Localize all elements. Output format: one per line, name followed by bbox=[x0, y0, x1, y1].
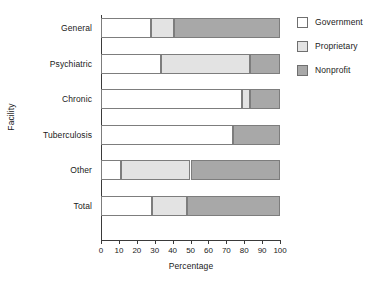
x-tick bbox=[262, 240, 263, 244]
stacked-bar bbox=[101, 196, 280, 216]
category-label-chronic: Chronic bbox=[6, 89, 92, 109]
legend-item-nonprofit: Nonprofit bbox=[297, 62, 373, 86]
bar-segment-government bbox=[101, 18, 151, 38]
bar-segment-government bbox=[101, 196, 152, 216]
legend-label: Nonprofit bbox=[315, 62, 350, 78]
x-tick bbox=[101, 240, 102, 244]
legend-label: Government bbox=[315, 14, 363, 30]
x-tick bbox=[119, 240, 120, 244]
stacked-bar-chart: Facility GeneralPsychiatricChronicTuberc… bbox=[0, 0, 374, 288]
legend-item-proprietary: Proprietary bbox=[297, 38, 373, 62]
chart-legend: GovernmentProprietaryNonprofit bbox=[297, 14, 373, 86]
stacked-bar bbox=[101, 18, 280, 38]
bar-segment-government bbox=[101, 54, 161, 74]
bar-segment-proprietary bbox=[121, 160, 191, 180]
bar-row: Chronic bbox=[0, 89, 374, 109]
category-label-other: Other bbox=[6, 160, 92, 180]
category-label-tuberculosis: Tuberculosis bbox=[6, 125, 92, 145]
x-tick bbox=[226, 240, 227, 244]
bar-segment-government bbox=[101, 160, 121, 180]
stacked-bar bbox=[101, 54, 280, 74]
legend-swatch-nonprofit bbox=[297, 65, 308, 76]
legend-swatch-proprietary bbox=[297, 41, 308, 52]
x-tick bbox=[155, 240, 156, 244]
bar-row: Tuberculosis bbox=[0, 125, 374, 145]
bar-row: Total bbox=[0, 196, 374, 216]
category-label-general: General bbox=[6, 18, 92, 38]
bar-segment-proprietary bbox=[161, 54, 250, 74]
x-tick bbox=[244, 240, 245, 244]
category-label-total: Total bbox=[6, 196, 92, 216]
bar-segment-proprietary bbox=[151, 18, 174, 38]
legend-label: Proprietary bbox=[315, 38, 358, 54]
category-label-psychiatric: Psychiatric bbox=[6, 54, 92, 74]
stacked-bar bbox=[101, 160, 280, 180]
stacked-bar bbox=[101, 89, 280, 109]
stacked-bar bbox=[101, 125, 280, 145]
bar-row: Other bbox=[0, 160, 374, 180]
x-tick bbox=[208, 240, 209, 244]
bar-segment-proprietary bbox=[242, 89, 249, 109]
legend-swatch-government bbox=[297, 17, 308, 28]
bar-segment-government bbox=[101, 125, 233, 145]
x-axis-title: Percentage bbox=[101, 261, 281, 271]
x-tick bbox=[191, 240, 192, 244]
x-tick bbox=[137, 240, 138, 244]
bar-segment-nonprofit bbox=[250, 54, 280, 74]
x-tick-label: 100 bbox=[268, 246, 292, 255]
bar-segment-government bbox=[101, 89, 242, 109]
bar-segment-proprietary bbox=[152, 196, 187, 216]
legend-item-government: Government bbox=[297, 14, 373, 38]
bar-segment-nonprofit bbox=[250, 89, 280, 109]
bar-segment-nonprofit bbox=[187, 196, 280, 216]
x-tick bbox=[280, 240, 281, 244]
bar-segment-nonprofit bbox=[191, 160, 281, 180]
bar-segment-nonprofit bbox=[174, 18, 280, 38]
bar-segment-nonprofit bbox=[233, 125, 280, 145]
x-tick bbox=[173, 240, 174, 244]
